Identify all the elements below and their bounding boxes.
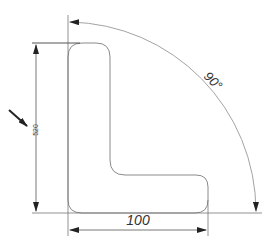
angle-dimension-arc: [70, 22, 256, 211]
pointer-arrow: [9, 110, 27, 126]
horizontal-dimension-label: 100: [126, 212, 150, 228]
l-profile-outline: [68, 43, 208, 213]
vertical-dimension-label: 520: [32, 124, 39, 136]
angle-dimension-label: 90°: [201, 69, 226, 94]
technical-drawing: 520 100 90°: [0, 0, 268, 248]
